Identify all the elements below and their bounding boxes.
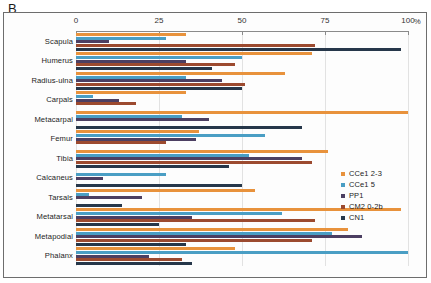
bar: [76, 161, 312, 164]
bar-group: Radius-ulna: [76, 71, 408, 91]
bar: [76, 48, 401, 51]
legend-swatch-icon: [341, 205, 345, 209]
category-label: Metacarpal: [34, 115, 73, 124]
legend-label: CN1: [349, 213, 364, 222]
bar: [76, 91, 186, 94]
bar: [76, 134, 265, 137]
bar: [76, 228, 348, 231]
bar: [76, 177, 103, 180]
tick-label: 0: [74, 16, 78, 25]
bar: [76, 33, 186, 36]
category-label: Femur: [51, 134, 73, 143]
legend-swatch-icon: [341, 183, 345, 187]
plot-area: ScapulaHumerusRadius-ulnaCarpalsMetacarp…: [76, 32, 408, 266]
legend-item[interactable]: PP1: [341, 190, 421, 201]
category-label: Phalanx: [45, 251, 73, 260]
bar: [76, 138, 196, 141]
category-label: Humerus: [41, 56, 73, 65]
category-label: Metapodial: [35, 232, 73, 241]
x-axis-unit-label: %: [414, 17, 421, 26]
bar: [76, 247, 235, 250]
bar-group: Scapula: [76, 32, 408, 52]
legend-item[interactable]: CCe1 5: [341, 179, 421, 190]
legend-swatch-icon: [341, 172, 345, 176]
bar: [76, 196, 142, 199]
bar-group: Carpals: [76, 91, 408, 111]
category-label: Carpals: [46, 95, 73, 104]
bar: [76, 193, 89, 196]
bar: [76, 239, 312, 242]
bar: [76, 111, 408, 114]
chart-legend: CCe1 2-3CCe1 5PP1CM2 0-2bCN1: [341, 168, 421, 223]
legend-item[interactable]: CCe1 2-3: [341, 168, 421, 179]
bar: [76, 126, 302, 129]
bar: [76, 118, 209, 121]
bar-group: Metacarpal: [76, 110, 408, 130]
bar: [76, 173, 166, 176]
bar: [76, 63, 235, 66]
category-label: Radius-ulna: [31, 76, 73, 85]
bar: [76, 141, 166, 144]
bar: [76, 72, 285, 75]
bar: [76, 52, 312, 55]
bar: [76, 251, 408, 254]
bar: [76, 204, 122, 207]
bar: [76, 262, 192, 265]
legend-item[interactable]: CN1: [341, 212, 421, 223]
category-label: Metatarsal: [37, 212, 73, 221]
bar: [76, 102, 136, 105]
bar: [76, 219, 315, 222]
bar-group: Tibia: [76, 149, 408, 169]
bar: [76, 150, 328, 153]
bar: [76, 157, 302, 160]
bar: [76, 83, 245, 86]
bar: [76, 165, 229, 168]
bar: [76, 154, 249, 157]
legend-label: CCe1 5: [349, 180, 375, 189]
bar-group: Femur: [76, 130, 408, 150]
bar: [76, 95, 93, 98]
legend-label: CM2 0-2b: [349, 202, 383, 211]
bar: [76, 189, 255, 192]
tick-label: 100: [401, 16, 414, 25]
bar: [76, 232, 332, 235]
bar: [76, 99, 119, 102]
bar: [76, 67, 212, 70]
bar: [76, 216, 192, 219]
bar: [76, 184, 242, 187]
gridline: [408, 32, 409, 266]
bar: [76, 258, 182, 261]
bar: [76, 223, 159, 226]
bar: [76, 56, 242, 59]
bar: [76, 60, 186, 63]
category-label: Tarsals: [48, 193, 73, 202]
bar: [76, 87, 242, 90]
bar: [76, 37, 166, 40]
bar: [76, 130, 199, 133]
legend-swatch-icon: [341, 194, 345, 198]
bar: [76, 40, 109, 43]
bar: [76, 115, 182, 118]
bar-group: Metapodial: [76, 227, 408, 247]
bar-group: Humerus: [76, 52, 408, 72]
tick-label: 75: [321, 16, 330, 25]
category-label: Tibia: [56, 154, 73, 163]
bar: [76, 76, 186, 79]
legend-label: CCe1 2-3: [349, 169, 382, 178]
tick-label: 50: [238, 16, 247, 25]
category-label: Scapula: [45, 37, 73, 46]
tick-label: 25: [155, 16, 164, 25]
tick-mark: [408, 31, 409, 35]
bar: [76, 235, 362, 238]
category-label: Calcaneus: [36, 173, 73, 182]
bar-group: Phalanx: [76, 247, 408, 267]
legend-item[interactable]: CM2 0-2b: [341, 201, 421, 212]
chart-screenshot: B 0255075100 % ScapulaHumerusRadius-ulna…: [0, 0, 431, 283]
legend-label: PP1: [349, 191, 363, 200]
bar: [76, 79, 222, 82]
legend-swatch-icon: [341, 216, 345, 220]
bar: [76, 44, 315, 47]
bar: [76, 212, 282, 215]
bar: [76, 255, 149, 258]
bar: [76, 243, 186, 246]
